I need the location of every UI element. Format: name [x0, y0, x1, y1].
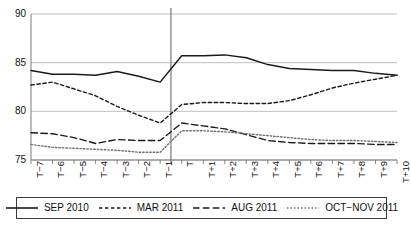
- legend-item: SEP 2010: [5, 203, 89, 213]
- line-chart-svg: [29, 0, 401, 175]
- legend-item: AUG 2011: [192, 203, 277, 213]
- x-tick-label: T+6: [314, 161, 324, 178]
- axis-lines: [31, 14, 397, 160]
- x-tick-label: T+5: [293, 161, 303, 178]
- data-series-group: [31, 55, 397, 152]
- series-line-aug-2011: [31, 123, 397, 144]
- x-tick-label: T+4: [271, 161, 281, 178]
- gridlines: [31, 14, 397, 160]
- x-tick-label: T+2: [228, 161, 238, 178]
- x-tick-label: T−1: [164, 161, 174, 178]
- plot-area: 90858075 T−7T−6T−5T−4T−3T−2T−1TT+1T+2T+3…: [0, 0, 405, 175]
- chart-canvas: [29, 0, 401, 175]
- x-tick-label: T: [185, 161, 195, 167]
- solid-line-key: [5, 203, 39, 213]
- x-axis-labels: T−7T−6T−5T−4T−3T−2T−1TT+1T+2T+3T+4T+5T+6…: [29, 161, 401, 195]
- legend-item: MAR 2011: [98, 203, 184, 213]
- x-tick-label: T−3: [121, 161, 131, 178]
- legend-label: SEP 2010: [44, 203, 89, 213]
- y-tick-label: 75: [15, 155, 26, 165]
- y-tick-label: 80: [15, 106, 26, 116]
- x-tick-label: T+8: [357, 161, 367, 178]
- dotted-dash-line-key: [98, 203, 132, 213]
- x-tick-label: T+3: [250, 161, 260, 178]
- dashed-line-key: [192, 203, 226, 213]
- legend-label: MAR 2011: [137, 203, 184, 213]
- x-tick-label: T−2: [142, 161, 152, 178]
- legend-label: OCT−NOV 2011: [325, 203, 398, 213]
- dotted-line-key: [286, 203, 320, 213]
- x-tick-label: T−7: [35, 161, 45, 178]
- legend-label: AUG 2011: [231, 203, 277, 213]
- x-tick-label: T+7: [336, 161, 346, 178]
- y-tick-label: 85: [15, 58, 26, 68]
- y-tick-label: 90: [15, 9, 26, 19]
- x-tick-label: T−5: [78, 161, 88, 178]
- y-axis-labels: 90858075: [0, 0, 28, 175]
- x-tick-label: T−6: [56, 161, 66, 178]
- chart-legend: SEP 2010MAR 2011AUG 2011OCT−NOV 2011: [16, 197, 387, 219]
- series-line-sep-2010: [31, 55, 397, 82]
- series-line-mar-2011: [31, 75, 397, 123]
- legend-item: OCT−NOV 2011: [286, 203, 398, 213]
- x-tick-label: T+10: [401, 161, 411, 183]
- x-tick-label: T+9: [379, 161, 389, 178]
- x-tick-label: T+1: [207, 161, 217, 178]
- x-tick-label: T−4: [99, 161, 109, 178]
